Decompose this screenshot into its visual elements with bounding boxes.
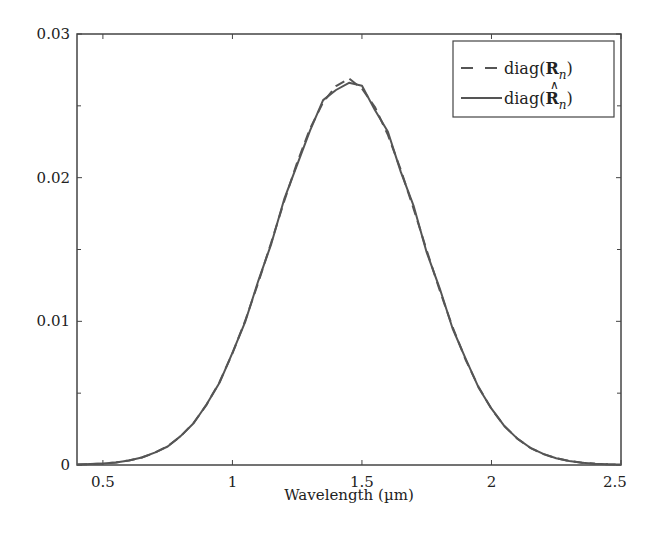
x-tick-label: 2.5 bbox=[603, 473, 627, 491]
y-tick-label: 0.02 bbox=[37, 169, 70, 187]
y-tick-label: 0.01 bbox=[37, 312, 70, 330]
hat-accent-icon: ∧ bbox=[550, 78, 559, 92]
chart: 0.511.522.500.010.020.03 Wavelength (µm)… bbox=[0, 0, 662, 550]
x-axis-label: Wavelength (µm) bbox=[284, 486, 413, 504]
y-tick-label: 0.03 bbox=[37, 25, 70, 43]
x-tick-label: 1 bbox=[228, 473, 238, 491]
legend: diag(Rn) diag(Rn) ∧ bbox=[453, 41, 614, 117]
x-tick-label: 0.5 bbox=[91, 473, 115, 491]
x-tick-label: 2 bbox=[487, 473, 497, 491]
y-tick-label: 0 bbox=[60, 456, 70, 474]
